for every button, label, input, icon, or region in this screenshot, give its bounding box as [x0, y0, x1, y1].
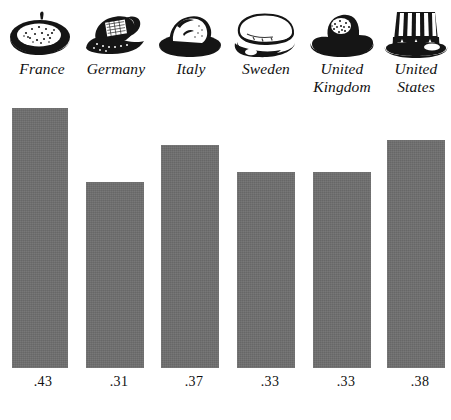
- bar-italy: [161, 145, 219, 368]
- student-cap-icon: [229, 4, 303, 60]
- uncle-sam-top-hat-icon: [379, 4, 451, 60]
- country-label-sweden: Sweden: [223, 60, 309, 78]
- bar-france: [12, 108, 68, 368]
- bowler-hat-icon: [305, 4, 379, 60]
- bar-value-italy: .37: [151, 374, 237, 390]
- country-label-line: Sweden: [223, 60, 309, 78]
- country-label-line: Italy: [148, 60, 234, 78]
- beret-icon: [5, 4, 79, 60]
- bar-value-germany: .31: [76, 374, 162, 390]
- country-label-line: States: [373, 78, 451, 96]
- bar-value-france: .43: [0, 374, 86, 390]
- bar-united-kingdom: [313, 172, 371, 368]
- bar-united-states: [387, 140, 445, 368]
- bar-value-united-states: .38: [377, 374, 451, 390]
- bar-sweden: [237, 172, 295, 368]
- fedora-icon: [154, 4, 228, 60]
- tyrolean-hat-icon: [79, 4, 153, 60]
- country-label-line: United: [373, 60, 451, 78]
- bar-value-sweden: .33: [227, 374, 313, 390]
- country-label-germany: Germany: [73, 60, 159, 78]
- country-label-line: Germany: [73, 60, 159, 78]
- bar-germany: [86, 182, 144, 368]
- hat-bar-chart-figure: France Germany: [0, 0, 451, 420]
- country-label-united-states: United States: [373, 60, 451, 95]
- country-label-italy: Italy: [148, 60, 234, 78]
